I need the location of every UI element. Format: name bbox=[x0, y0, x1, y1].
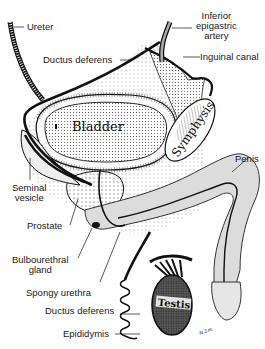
label-ductus-deferens-bottom: Ductus deferens bbox=[45, 306, 114, 316]
epididymis bbox=[121, 280, 138, 339]
glans bbox=[212, 282, 241, 320]
label-prostate: Prostate bbox=[27, 221, 62, 231]
bladder-text: Bladder bbox=[72, 119, 125, 134]
label-ductus-deferens-top: Ductus deferens bbox=[43, 55, 112, 65]
label-ureter: Ureter bbox=[27, 22, 53, 32]
ductus-deferens-lower bbox=[125, 232, 150, 280]
label-epididymis: Epididymis bbox=[63, 329, 109, 339]
bladder: Bladder bbox=[36, 94, 176, 170]
label-spongy-urethra: Spongy urethra bbox=[26, 288, 91, 298]
artist-signature: N.J.m. bbox=[198, 325, 214, 336]
label-inguinal-canal: Inguinal canal bbox=[200, 52, 259, 62]
label-inferior-epigastric-artery: Inferior epigastric artery bbox=[196, 11, 237, 41]
anatomy-diagram: Bladder Symphysis bbox=[0, 0, 265, 349]
testis: Testis bbox=[150, 256, 192, 335]
label-seminal-vesicle: Seminal vesicle bbox=[12, 183, 46, 203]
bulbourethral-gland bbox=[92, 222, 100, 228]
label-penis: Penis bbox=[235, 154, 259, 164]
label-bulbourethral-gland: Bulbourethral gland bbox=[12, 255, 69, 275]
ureter bbox=[10, 22, 43, 100]
